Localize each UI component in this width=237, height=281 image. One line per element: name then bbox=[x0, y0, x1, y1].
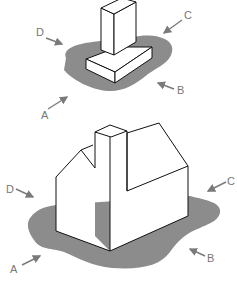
diagram-canvas: D C B A D C B A bbox=[0, 0, 237, 281]
arrow-a-top bbox=[48, 97, 67, 109]
arrow-d-top bbox=[46, 38, 62, 44]
label-b-top: B bbox=[177, 85, 184, 96]
arrow-b-top bbox=[158, 83, 174, 89]
label-b-house: B bbox=[207, 253, 214, 264]
column-footing-figure bbox=[46, 0, 182, 109]
label-c-house: C bbox=[227, 176, 235, 187]
diagram-svg bbox=[0, 0, 237, 281]
label-d-house: D bbox=[6, 184, 14, 195]
house-foundation-figure bbox=[16, 123, 226, 268]
arrow-a-house bbox=[22, 256, 40, 265]
arrow-d-house bbox=[16, 189, 33, 197]
arrow-b-house bbox=[190, 249, 205, 256]
label-d-top: D bbox=[36, 27, 44, 38]
column-left-face bbox=[101, 8, 114, 55]
label-a-top: A bbox=[41, 110, 48, 121]
arrow-c-house bbox=[208, 182, 226, 191]
label-c-top: C bbox=[184, 10, 192, 21]
label-a-house: A bbox=[10, 264, 17, 275]
arrow-c-top bbox=[164, 20, 182, 33]
